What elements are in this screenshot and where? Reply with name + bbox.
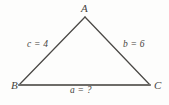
triangle-side-c — [19, 17, 85, 85]
vertex-label-b: B — [11, 80, 18, 91]
vertex-label-a: A — [81, 3, 88, 14]
vertex-label-c: C — [154, 80, 162, 91]
side-label-c: c = 4 — [27, 40, 48, 50]
side-label-b: b = 6 — [123, 40, 145, 50]
triangle-diagram: A B C c = 4 b = 6 a = ? — [0, 0, 169, 105]
side-label-a: a = ? — [70, 86, 92, 96]
triangle-side-b — [85, 17, 150, 85]
